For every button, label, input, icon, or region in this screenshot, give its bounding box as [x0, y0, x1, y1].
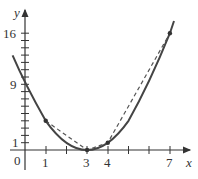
x-axis-label: x — [185, 155, 192, 170]
x-tick-label-3: 3 — [83, 155, 90, 170]
y-axis-label: y — [12, 5, 20, 20]
parabola-curve — [13, 21, 174, 150]
y-tick-label-16: 16 — [3, 26, 17, 41]
x-tick-label-1: 1 — [42, 155, 49, 170]
point-x1 — [44, 119, 48, 123]
chart: y 16 9 1 0 1 3 4 7 x — [0, 0, 198, 179]
secant-segments — [46, 33, 170, 150]
y-tick-label-1: 1 — [12, 135, 19, 150]
data-points — [44, 31, 173, 152]
point-x3 — [85, 148, 89, 152]
x-tick-label-4: 4 — [104, 155, 111, 170]
point-x7 — [168, 31, 172, 35]
x-tick-label-7: 7 — [166, 155, 173, 170]
y-tick-label-9: 9 — [10, 77, 17, 92]
point-x4 — [106, 141, 110, 145]
origin-label: 0 — [14, 153, 21, 168]
